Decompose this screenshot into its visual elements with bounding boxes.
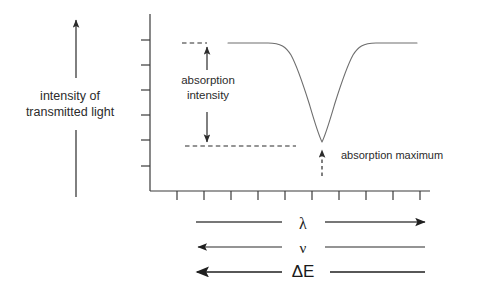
y-axis-title-line-1: intensity of	[0, 88, 140, 104]
y-axis-title: intensity of transmitted light	[0, 88, 140, 120]
absorption-spectrum-figure: intensity of transmitted light absorptio…	[0, 0, 480, 302]
delta-e-symbol: ΔE	[284, 262, 322, 282]
lambda-symbol: λ	[288, 215, 318, 233]
absorption-curve	[228, 43, 417, 142]
plot-axes	[141, 14, 430, 200]
absorption-intensity-line-1: absorption	[166, 73, 250, 88]
absorption-intensity-label: absorption intensity	[166, 73, 250, 102]
nu-symbol: ν	[288, 240, 318, 257]
y-axis-title-line-2: transmitted light	[0, 104, 140, 120]
y-axis-ticks	[141, 40, 150, 166]
absorption-maximum-label: absorption maximum	[341, 148, 443, 162]
x-axis-ticks	[177, 191, 420, 200]
absorption-intensity-line-2: intensity	[166, 88, 250, 103]
